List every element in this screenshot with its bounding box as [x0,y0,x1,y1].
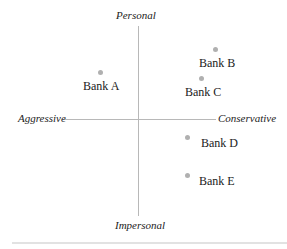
point-marker-bank-b [213,47,218,52]
point-marker-bank-a [98,70,103,75]
axis-label-right: Conservative [218,112,276,124]
point-marker-bank-c [199,76,204,81]
point-label-bank-e: Bank E [199,174,235,189]
point-label-bank-c: Bank C [185,85,221,100]
point-marker-bank-d [185,135,190,140]
point-label-bank-a: Bank A [83,79,119,94]
axis-label-top: Personal [116,9,156,21]
bottom-divider [12,242,287,244]
axis-label-bottom: Impersonal [115,219,165,231]
horizontal-axis [62,119,216,120]
axis-label-left: Aggressive [18,112,66,124]
point-label-bank-d: Bank D [201,136,238,151]
vertical-axis [138,26,139,216]
point-marker-bank-e [185,173,190,178]
point-label-bank-b: Bank B [199,56,235,71]
